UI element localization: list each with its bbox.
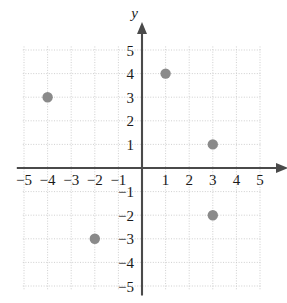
x-tick-label: −4 [40, 172, 56, 188]
data-point: (−4, 3) [42, 92, 52, 102]
x-tick-label: 4 [233, 172, 241, 188]
x-tick-label: −2 [87, 172, 103, 188]
y-axis-arrowhead [137, 22, 147, 34]
y-tick-label: 1 [127, 137, 135, 153]
x-tick-label: 3 [209, 172, 217, 188]
x-tick-label: −3 [63, 172, 79, 188]
x-tick-label: 2 [185, 172, 193, 188]
y-tick-label: −4 [118, 255, 134, 271]
y-tick-label: −1 [118, 184, 134, 200]
y-tick-label: 5 [127, 43, 135, 59]
y-tick-label: 4 [127, 66, 135, 82]
axis-name-labels: xy [129, 5, 287, 177]
data-point: (3, 1) [208, 139, 218, 149]
x-axis-arrowhead [276, 163, 287, 173]
x-tick-label: 1 [162, 172, 170, 188]
y-tick-label: −5 [118, 279, 134, 295]
data-point: (3, −2) [208, 210, 218, 220]
scatter-plot-svg: −5−4−3−2−112345−5−4−3−2−112345 (−4, 3)(1… [0, 0, 287, 303]
y-tick-label: 2 [127, 113, 135, 129]
coordinate-plane-chart: −5−4−3−2−112345−5−4−3−2−112345 (−4, 3)(1… [0, 0, 287, 303]
y-tick-label: −3 [118, 231, 134, 247]
x-tick-label: 5 [256, 172, 264, 188]
axes [17, 22, 287, 296]
x-tick-label: −5 [16, 172, 32, 188]
y-axis-name: y [129, 5, 138, 21]
y-tick-label: 3 [127, 90, 135, 106]
data-point: (1, 4) [160, 68, 170, 78]
y-tick-label: −2 [118, 208, 134, 224]
data-point: (−2, −3) [90, 234, 100, 244]
